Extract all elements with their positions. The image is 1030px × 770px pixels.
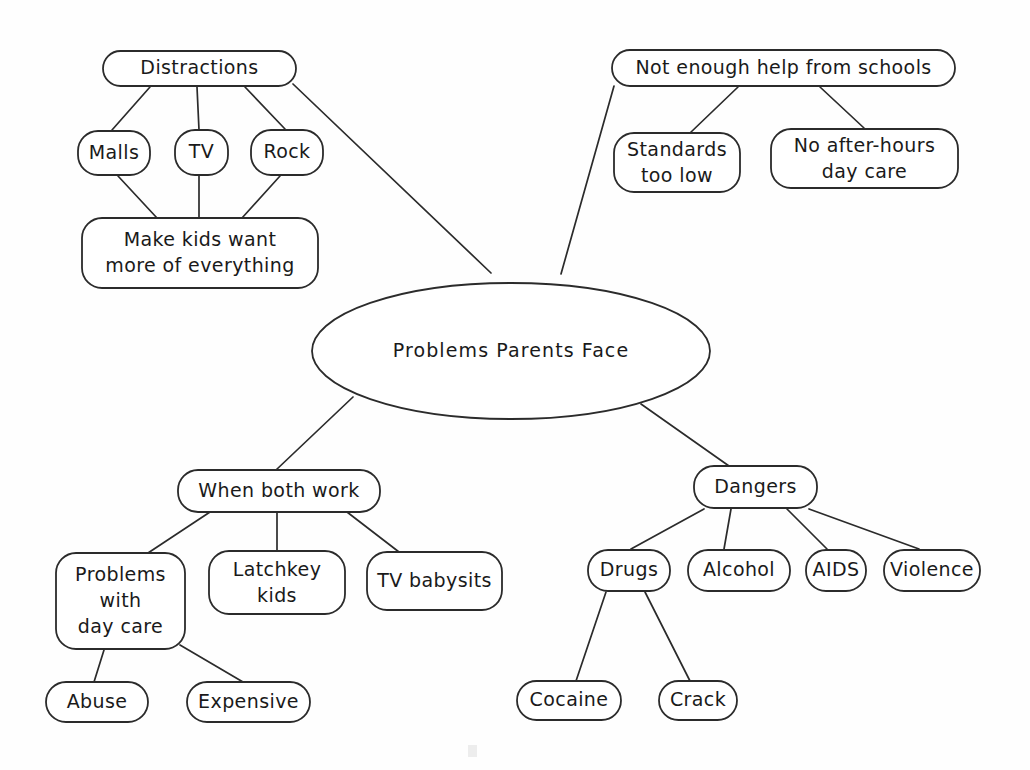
faint-artifact [468, 745, 477, 757]
edge-distractions-to-central [293, 84, 491, 273]
node-label: Violence [890, 558, 974, 580]
node-abuse[interactable]: Abuse [46, 682, 148, 722]
edge-line [347, 512, 399, 552]
node-crack[interactable]: Crack [659, 681, 737, 720]
node-label: Cocaine [530, 688, 609, 710]
node-tv-babysits[interactable]: TV babysits [367, 552, 502, 610]
edge-dangers-to-alcohol [724, 509, 731, 549]
concept-map-svg: Problems Parents FaceDistractionsMallsTV… [0, 0, 1030, 770]
node-label: Drugs [600, 558, 658, 580]
node-malls[interactable]: Malls [78, 131, 150, 175]
edge-problems-with-day-care-to-expensive [180, 645, 243, 682]
node-layer: Problems Parents FaceDistractionsMallsTV… [46, 50, 980, 722]
edge-drugs-to-cocaine [576, 592, 606, 681]
edge-central-to-not-enough-help [561, 86, 614, 274]
edge-line [112, 87, 150, 130]
node-label: When both work [198, 479, 359, 501]
edge-when-both-work-to-tv-babysits [347, 512, 399, 552]
node-expensive[interactable]: Expensive [187, 682, 310, 722]
edge-line [724, 509, 731, 549]
edge-line [276, 397, 353, 470]
edge-line [148, 512, 210, 553]
node-dangers[interactable]: Dangers [694, 466, 817, 508]
edge-when-both-work-to-problems-with-day-care [148, 512, 210, 553]
node-no-after-hours-day-care[interactable]: No after-hoursday care [771, 129, 958, 188]
edge-line [197, 87, 199, 130]
node-label: Abuse [67, 690, 128, 712]
edge-drugs-to-crack [645, 592, 690, 681]
node-label: Dangers [714, 475, 797, 497]
node-label: Alcohol [703, 558, 775, 580]
edge-distractions-to-tv [197, 87, 199, 130]
node-latchkey-kids[interactable]: Latchkeykids [209, 551, 345, 614]
node-problems-with-day-care[interactable]: Problemswithday care [56, 553, 185, 649]
edge-central-to-dangers [641, 404, 729, 466]
edge-problems-with-day-care-to-abuse [94, 650, 104, 682]
concept-map-canvas: Problems Parents FaceDistractionsMallsTV… [0, 0, 1030, 770]
node-label: AIDS [813, 558, 860, 580]
node-aids[interactable]: AIDS [806, 550, 866, 591]
node-not-enough-help[interactable]: Not enough help from schools [612, 50, 955, 86]
node-make-kids-want[interactable]: Make kids wantmore of everything [82, 218, 318, 288]
node-drugs[interactable]: Drugs [588, 550, 670, 591]
node-alcohol[interactable]: Alcohol [688, 550, 790, 591]
edge-line [561, 86, 614, 274]
edge-line [118, 176, 157, 218]
node-cocaine[interactable]: Cocaine [517, 681, 621, 720]
node-label: Crack [670, 688, 726, 710]
edge-line [645, 592, 690, 681]
edge-line [787, 509, 827, 549]
edge-distractions-to-malls [112, 87, 150, 130]
node-standards-too-low[interactable]: Standardstoo low [614, 133, 740, 192]
node-label: TV babysits [376, 569, 492, 591]
node-label: Malls [89, 141, 140, 163]
edge-line [820, 87, 864, 128]
edge-dangers-to-aids [787, 509, 827, 549]
edge-line [245, 87, 285, 129]
edge-line [641, 404, 729, 466]
edge-distractions-to-rock [245, 87, 285, 129]
edge-dangers-to-drugs [631, 509, 704, 549]
node-label: Not enough help from schools [635, 56, 931, 78]
node-label: TV [188, 140, 214, 162]
edge-line [576, 592, 606, 681]
node-label: Expensive [198, 690, 299, 712]
node-rock[interactable]: Rock [251, 130, 323, 175]
edge-rock-to-make-kids-want [242, 176, 280, 218]
node-when-both-work[interactable]: When both work [178, 470, 380, 512]
edge-line [94, 650, 104, 682]
node-central[interactable]: Problems Parents Face [312, 283, 710, 419]
edge-malls-to-make-kids-want [118, 176, 157, 218]
edge-line [293, 84, 491, 273]
edge-line [809, 509, 919, 549]
edge-line [180, 645, 243, 682]
node-label: Distractions [140, 56, 258, 78]
edge-central-to-when-both-work [276, 397, 353, 470]
node-tv[interactable]: TV [175, 130, 228, 175]
edge-not-enough-help-to-standards-too-low [690, 87, 738, 133]
edge-line [631, 509, 704, 549]
node-violence[interactable]: Violence [884, 550, 980, 591]
edge-line [242, 176, 280, 218]
node-label: Problems Parents Face [393, 339, 629, 361]
node-label: Rock [263, 140, 310, 162]
node-distractions[interactable]: Distractions [103, 51, 296, 86]
edge-line [690, 87, 738, 133]
edge-not-enough-help-to-no-after-hours-day-care [820, 87, 864, 128]
edge-dangers-to-violence [809, 509, 919, 549]
